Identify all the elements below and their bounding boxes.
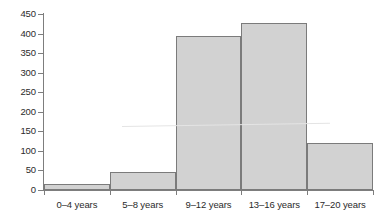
y-axis-tick [38,14,43,15]
y-axis-tick-label: 300 [2,68,36,77]
y-axis-tick [38,53,43,54]
histogram-chart: 050100150200250300350400450 0–4 years5–8… [0,0,390,218]
x-axis-tick [176,191,177,195]
y-axis-tick [38,92,43,93]
y-axis-tick [38,190,43,191]
y-axis-tick-label: 100 [2,146,36,155]
y-axis-tick-label: 400 [2,29,36,38]
bar [44,184,110,190]
y-axis-tick-label: 450 [2,9,36,18]
x-axis-tick [373,191,374,195]
y-axis-tick-label-wrap: 150 [0,126,36,135]
y-axis-tick-label-wrap: 100 [0,146,36,155]
bar [110,172,176,190]
bar [307,143,373,190]
y-axis-tick [38,73,43,74]
x-axis-line [43,190,374,191]
y-axis-tick-label: 0 [2,185,36,194]
x-axis-tick [241,191,242,195]
y-axis-tick [38,151,43,152]
y-axis-tick-label: 200 [2,107,36,116]
bar [176,36,242,190]
y-axis-tick-label-wrap: 50 [0,165,36,174]
y-axis-tick-label-wrap: 250 [0,87,36,96]
y-axis-tick-label-wrap: 0 [0,185,36,194]
x-axis-label: 17–20 years [307,199,373,210]
x-axis-tick [110,191,111,195]
y-axis-tick-label: 350 [2,48,36,57]
y-axis-tick-label: 150 [2,126,36,135]
bar [241,23,307,190]
y-axis-tick-label-wrap: 450 [0,9,36,18]
y-axis-tick [38,131,43,132]
y-axis-tick-label-wrap: 350 [0,48,36,57]
x-axis-label: 0–4 years [44,199,110,210]
y-axis-tick-label-wrap: 400 [0,29,36,38]
y-axis-tick-label: 250 [2,87,36,96]
y-axis-tick-label-wrap: 200 [0,107,36,116]
y-axis-tick [38,170,43,171]
x-axis-tick [307,191,308,195]
x-axis-label: 13–16 years [241,199,307,210]
y-axis-tick-label: 50 [2,165,36,174]
plot-area [44,14,373,190]
x-axis-label: 5–8 years [110,199,176,210]
y-axis-tick-label-wrap: 300 [0,68,36,77]
y-axis-tick [38,34,43,35]
y-axis-tick [38,112,43,113]
x-axis-label: 9–12 years [176,199,242,210]
x-axis-tick [44,191,45,195]
